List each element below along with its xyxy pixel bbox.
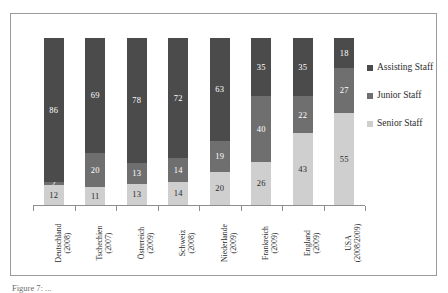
bar-segment-value: 18	[340, 49, 349, 58]
bar-column: 692011	[75, 38, 117, 205]
bar-segment-value: 26	[257, 179, 266, 188]
bar-segment-assisting: 63	[210, 38, 230, 141]
axis-tick	[324, 206, 325, 211]
axis-tick	[116, 206, 117, 211]
category-year: (2009)	[270, 212, 279, 274]
stacked-bar-series: 8621269201178131372141463192035402635224…	[33, 38, 365, 205]
bar-segment-value: 63	[215, 85, 224, 94]
stacked-bar[interactable]: 182755	[334, 38, 354, 205]
legend-label: Assisting Staff	[377, 63, 433, 73]
category-year: (2009)	[229, 212, 238, 274]
bar-segment-junior: 13	[127, 163, 147, 184]
category-label-text: Österreich(2009)	[137, 212, 155, 274]
stacked-bar[interactable]: 354026	[251, 38, 271, 205]
category-year: (2008)	[63, 212, 72, 274]
bar-segment-senior: 14	[168, 182, 188, 205]
category-label: Schweiz(2008)	[158, 212, 200, 274]
bar-column: 354026	[241, 38, 283, 205]
bar-segment-value: 13	[132, 169, 141, 178]
bar-segment-assisting: 78	[127, 38, 147, 163]
bar-segment-assisting: 72	[168, 38, 188, 158]
category-label: USA(2008/2009)	[324, 212, 366, 274]
bar-segment-value: 43	[298, 165, 307, 174]
category-name: Schweiz	[178, 212, 187, 274]
legend-item[interactable]: Senior Staff	[367, 110, 448, 138]
stacked-bar[interactable]: 352243	[293, 38, 313, 205]
bar-segment-value: 14	[174, 189, 183, 198]
bar-segment-junior: 27	[334, 68, 354, 113]
category-year: (2008/2009)	[353, 212, 362, 274]
category-label: Deutschland(2008)	[33, 212, 75, 274]
category-label-text: England(2009)	[303, 212, 321, 274]
bar-segment-value: 19	[215, 152, 224, 161]
bar-segment-value: 27	[340, 86, 349, 95]
bar-segment-assisting: 35	[293, 38, 313, 96]
bar-segment-senior: 12	[44, 185, 64, 205]
stacked-bar[interactable]: 86212	[44, 38, 64, 205]
category-name: England	[303, 212, 312, 274]
bar-segment-junior: 40	[251, 96, 271, 162]
category-label: Frankreich(2009)	[241, 212, 283, 274]
legend-label: Junior Staff	[377, 91, 421, 101]
category-label-text: Niederlande(2009)	[220, 212, 238, 274]
category-label-text: Schweiz(2008)	[178, 212, 196, 274]
category-axis	[33, 205, 365, 210]
bar-segment-value: 20	[91, 166, 100, 175]
category-axis-labels: Deutschland(2008)Tschechien(2007)Österre…	[33, 212, 365, 274]
category-label: Niederlande(2009)	[199, 212, 241, 274]
category-name: Tschechien	[95, 212, 104, 274]
axis-tick	[199, 206, 200, 211]
axis-tick	[33, 206, 34, 211]
bar-segment-value: 40	[257, 125, 266, 134]
axis-tick	[75, 206, 76, 211]
category-label: England(2009)	[282, 212, 324, 274]
bar-segment-senior: 20	[210, 172, 230, 205]
bar-column: 86212	[33, 38, 75, 205]
bar-segment-senior: 43	[293, 133, 313, 205]
bar-segment-value: 11	[91, 192, 100, 201]
bar-column: 781313	[116, 38, 158, 205]
category-label: Österreich(2009)	[116, 212, 158, 274]
bar-segment-value: 72	[174, 94, 183, 103]
bar-segment-junior: 19	[210, 141, 230, 172]
bar-segment-value: 69	[91, 91, 100, 100]
bar-segment-junior: 20	[85, 153, 105, 186]
bar-segment-value: 22	[298, 111, 307, 120]
category-year: (2009)	[312, 212, 321, 274]
bar-segment-value: 13	[132, 190, 141, 199]
bar-segment-value: 35	[298, 63, 307, 72]
stacked-bar[interactable]: 781313	[127, 38, 147, 205]
bar-segment-value: 20	[215, 184, 224, 193]
chart-legend: Assisting StaffJunior StaffSenior Staff	[367, 54, 448, 138]
legend-swatch-icon	[367, 93, 373, 99]
stacked-bar[interactable]: 631920	[210, 38, 230, 205]
stacked-bar[interactable]: 721414	[168, 38, 188, 205]
category-label: Tschechien(2007)	[75, 212, 117, 274]
figure-caption: Figure 7: ...	[12, 283, 51, 293]
bar-segment-assisting: 35	[251, 38, 271, 96]
bar-column: 631920	[199, 38, 241, 205]
category-name: Niederlande	[220, 212, 229, 274]
category-label-text: Frankreich(2009)	[261, 212, 279, 274]
stacked-bar[interactable]: 692011	[85, 38, 105, 205]
category-label-text: USA(2008/2009)	[344, 212, 362, 274]
bar-segment-senior: 55	[334, 113, 354, 205]
bar-column: 182755	[324, 38, 366, 205]
bar-segment-senior: 13	[127, 184, 147, 205]
axis-tick	[241, 206, 242, 211]
bar-segment-assisting: 69	[85, 38, 105, 153]
axis-tick	[365, 206, 366, 211]
category-year: (2008)	[187, 212, 196, 274]
figure-frame: 8621269201178131372141463192035402635224…	[10, 13, 437, 276]
legend-item[interactable]: Junior Staff	[367, 82, 448, 110]
bar-column: 721414	[158, 38, 200, 205]
category-name: Österreich	[137, 212, 146, 274]
category-year: (2009)	[146, 212, 155, 274]
bar-segment-value: 55	[340, 155, 349, 164]
bar-segment-senior: 11	[85, 187, 105, 205]
bar-segment-junior: 22	[293, 96, 313, 133]
legend-item[interactable]: Assisting Staff	[367, 54, 448, 82]
bar-segment-value: 35	[257, 63, 266, 72]
category-name: USA	[344, 212, 353, 274]
category-year: (2007)	[104, 212, 113, 274]
